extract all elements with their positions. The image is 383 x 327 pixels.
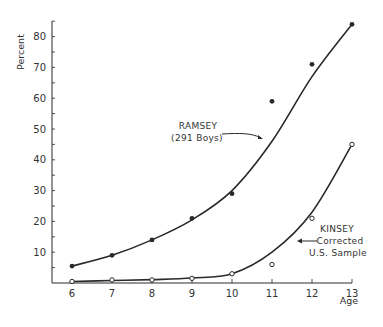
filled-circle-marker-icon: [350, 22, 355, 27]
kinsey-label: KINSEY: [320, 224, 354, 234]
kinsey-series: [70, 142, 354, 283]
y-tick-label: 70: [33, 62, 46, 73]
kinsey-sublabel-1: Corrected: [317, 236, 364, 246]
filled-circle-marker-icon: [150, 237, 155, 242]
filled-circle-marker-icon: [270, 99, 275, 104]
line-chart: 1020304050607080 678910111213 Percent Ag…: [0, 0, 383, 327]
y-axis-title: Percent: [15, 34, 26, 70]
ramsey-series: [70, 22, 355, 269]
kinsey-arrowhead-icon: [297, 239, 302, 244]
x-tick-label: 10: [226, 288, 239, 299]
kinsey-annotation: KINSEY Corrected U.S. Sample: [297, 224, 367, 258]
x-axis: 678910111213: [52, 279, 358, 299]
x-tick-label: 11: [266, 288, 279, 299]
open-circle-marker-icon: [110, 278, 114, 282]
y-tick-label: 40: [33, 154, 46, 165]
x-tick-label: 7: [109, 288, 115, 299]
y-tick-label: 20: [33, 216, 46, 227]
ramsey-annotation: RAMSEY (291 Boys): [171, 121, 263, 143]
kinsey-sublabel-2: U.S. Sample: [309, 248, 367, 258]
series-curve: [72, 24, 352, 266]
y-tick-label: 50: [33, 124, 46, 135]
y-tick-label: 30: [33, 185, 46, 196]
filled-circle-marker-icon: [110, 253, 115, 258]
open-circle-marker-icon: [270, 262, 274, 266]
ramsey-arrow: [222, 133, 261, 138]
open-circle-marker-icon: [230, 272, 234, 276]
y-tick-label: 60: [33, 93, 46, 104]
filled-circle-marker-icon: [70, 264, 75, 269]
open-circle-marker-icon: [190, 276, 194, 280]
filled-circle-marker-icon: [310, 62, 315, 67]
ramsey-label: RAMSEY: [179, 121, 218, 131]
ramsey-sublabel: (291 Boys): [171, 133, 223, 143]
y-tick-label: 80: [33, 31, 46, 42]
filled-circle-marker-icon: [190, 216, 195, 221]
open-circle-marker-icon: [350, 142, 354, 146]
y-axis: 1020304050607080: [33, 21, 55, 283]
filled-circle-marker-icon: [230, 191, 235, 196]
x-axis-title: Age: [340, 295, 359, 306]
x-tick-label: 6: [69, 288, 75, 299]
series-curve: [72, 144, 352, 281]
y-tick-label: 10: [33, 247, 46, 258]
open-circle-marker-icon: [310, 216, 314, 220]
x-tick-label: 9: [189, 288, 195, 299]
open-circle-marker-icon: [150, 278, 154, 282]
open-circle-marker-icon: [70, 279, 74, 283]
ramsey-arrowhead-icon: [258, 135, 263, 139]
x-tick-label: 8: [149, 288, 155, 299]
x-tick-label: 12: [306, 288, 319, 299]
